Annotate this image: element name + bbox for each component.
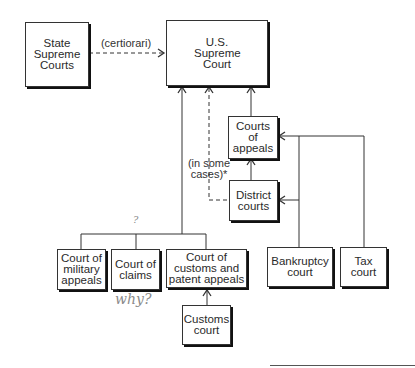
handwritten-why-note: why? — [115, 291, 151, 307]
node-tax-court: Tax court — [340, 247, 387, 287]
node-district-courts: District courts — [229, 180, 278, 221]
node-label: State Supreme Courts — [33, 38, 81, 71]
node-label: District courts — [232, 190, 276, 212]
node-court-of-claims: Court of claims — [111, 249, 160, 290]
node-us-supreme-court: U.S. Supreme Court — [166, 20, 268, 86]
node-courts-of-appeals: Courts of appeals — [228, 116, 278, 159]
certiorari-label: (certiorari) — [96, 38, 156, 49]
node-customs-court: Customs court — [182, 305, 231, 345]
in-some-cases-label-line2: cases)* — [186, 169, 232, 180]
node-bankruptcy-court: Bankruptcy court — [267, 247, 333, 287]
node-label: Tax court — [349, 256, 379, 278]
node-label: U.S. Supreme Court — [194, 37, 240, 70]
node-label: Court of military appeals — [59, 253, 104, 286]
node-label: Court of claims — [113, 259, 158, 281]
node-state-supreme-courts: State Supreme Courts — [25, 22, 89, 87]
node-label: Customs court — [184, 314, 229, 336]
node-court-of-customs-and-patent-appeals: Court of customs and patent appeals — [166, 249, 247, 288]
handwritten-question-mark: ? — [133, 214, 138, 225]
node-label: Court of customs and patent appeals — [168, 252, 245, 285]
bottom-rule — [270, 365, 415, 366]
node-label: Bankruptcy court — [269, 256, 331, 278]
node-label: Courts of appeals — [231, 121, 275, 154]
node-court-of-military-appeals: Court of military appeals — [57, 249, 106, 290]
